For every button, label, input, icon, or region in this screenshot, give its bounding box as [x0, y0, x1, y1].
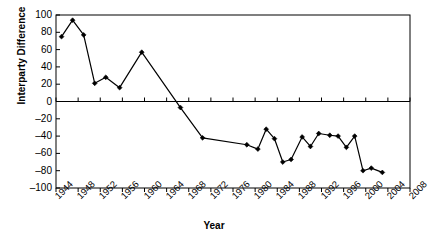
data-point-marker [361, 168, 366, 173]
y-tick-label: 20 [18, 79, 52, 89]
line-chart-plot [0, 0, 428, 237]
y-tick-label: 0 [18, 97, 52, 107]
data-point-marker [255, 147, 260, 152]
data-point-marker [369, 166, 374, 171]
chart-container: Interparty Difference Year 100806040200–… [0, 0, 428, 237]
data-point-marker [289, 157, 294, 162]
y-tick-label: 60 [18, 45, 52, 55]
data-line [62, 20, 383, 172]
y-tick-label: 100 [18, 10, 52, 20]
y-tick-label: –80 [18, 166, 52, 176]
y-tick-label: 80 [18, 27, 52, 37]
x-axis-title: Year [0, 220, 428, 231]
y-tick-label: –40 [18, 131, 52, 141]
data-point-marker [327, 133, 332, 138]
y-tick-label: 40 [18, 62, 52, 72]
data-point-marker [92, 81, 97, 86]
data-point-marker [380, 170, 385, 175]
y-tick-label: –60 [18, 148, 52, 158]
data-point-marker [280, 160, 285, 165]
y-tick-label: –100 [18, 183, 52, 193]
data-point-marker [244, 142, 249, 147]
y-tick-label: –20 [18, 114, 52, 124]
